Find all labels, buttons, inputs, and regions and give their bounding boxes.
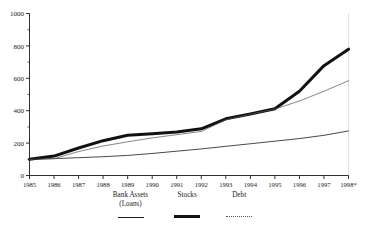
legend-sublabel: (Loans) [119, 200, 141, 208]
x-axis-tick-label: 1990 [146, 181, 160, 188]
x-axis-tick-label: 1996 [293, 181, 307, 188]
x-axis-tick-label: 1988 [97, 181, 111, 188]
x-axis-tick-label: 1992 [195, 181, 208, 188]
y-tick-layer [26, 14, 30, 176]
legend-swatch-wrap [118, 214, 144, 222]
legend-entry-stocks[interactable]: Stocks [174, 191, 200, 221]
y-axis-tick-label: 0 [21, 172, 25, 180]
x-axis-tick-label: 1989 [121, 181, 135, 188]
x-axis-tick-label: 1993 [219, 181, 233, 188]
y-axis-tick-label: 600 [14, 75, 25, 83]
x-axis-tick-label: 1986 [47, 181, 61, 188]
x-axis-tick-label: 1994 [244, 181, 258, 188]
legend-entry-bank-assets[interactable]: Bank Assets(Loans) [113, 191, 148, 222]
chart-legend: Bank Assets(Loans)Stocks Debt [0, 191, 365, 222]
y-tick-label-layer: 02004006008001000 [10, 10, 25, 180]
x-axis-tick-label: 1991 [170, 181, 183, 188]
legend-swatch-wrap [174, 213, 200, 221]
y-axis-tick-label: 400 [14, 107, 25, 115]
x-axis-tick-label: 1995 [268, 181, 282, 188]
x-axis-tick-label: 1985 [23, 181, 37, 188]
series-line-bank-assets [30, 131, 349, 159]
y-axis-tick-label: 200 [14, 140, 25, 148]
legend-swatch-dotted-line-icon [226, 216, 252, 217]
chart-figure: 02004006008001000 1985198619871988198919… [0, 0, 365, 229]
y-axis-tick-label: 800 [14, 43, 25, 51]
x-axis-tick-label: 1998* [340, 181, 356, 188]
series-line-stocks [30, 49, 349, 159]
legend-label: Bank Assets [113, 191, 148, 199]
data-series-layer [30, 49, 349, 159]
legend-entry-debt[interactable]: Debt [226, 191, 252, 221]
legend-swatch-wrap [226, 213, 252, 221]
x-tick-layer [30, 176, 349, 180]
axis-spines [30, 14, 349, 176]
axis-layer [30, 14, 349, 176]
y-axis-tick-label: 1000 [10, 10, 25, 18]
legend-label: Stocks [178, 191, 197, 199]
x-tick-label-layer: 1985198619871988198919901991199219931994… [23, 181, 357, 188]
legend-swatch-thick-line-icon [174, 215, 200, 218]
x-axis-tick-label: 1997 [317, 181, 331, 188]
legend-swatch-thin-line-icon [118, 217, 144, 218]
legend-label: Debt [232, 191, 246, 199]
x-axis-tick-label: 1987 [72, 181, 86, 188]
